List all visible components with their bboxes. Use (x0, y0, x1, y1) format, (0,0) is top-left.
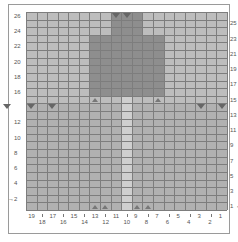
grid-line-horizontal (26, 111, 227, 112)
grid-line-horizontal (26, 50, 227, 51)
grid-line-horizontal (26, 35, 227, 36)
column-label: 10 (124, 219, 131, 225)
row-label-left: 6 (14, 165, 17, 171)
grid-line-horizontal (26, 126, 227, 127)
row-start-arrow-icon: → (8, 196, 14, 202)
grid-line-horizontal (26, 88, 227, 89)
grid-line-horizontal (26, 134, 227, 135)
row-label-right: 9 (230, 142, 233, 148)
grid-line-horizontal (26, 96, 227, 97)
row-label-left: 16 (14, 89, 21, 95)
decrease-triangle-icon (123, 13, 131, 18)
column-tick (190, 214, 191, 217)
row-label-right: 7 (230, 158, 233, 164)
row-label-left: 18 (14, 74, 21, 80)
column-label: 3 (198, 213, 201, 219)
grid-line-horizontal (26, 157, 227, 158)
grid-line-horizontal (26, 187, 227, 188)
column-label: 18 (39, 219, 46, 225)
grid-line-horizontal (26, 164, 227, 165)
column-tick (148, 214, 149, 217)
column-label: 16 (60, 219, 67, 225)
column-label: 2 (208, 219, 211, 225)
decrease-triangle-icon (218, 104, 226, 109)
grid-line-horizontal (26, 141, 227, 142)
increase-triangle-icon (155, 98, 161, 102)
row-label-right: 15 (230, 97, 237, 103)
row-label-left: 4 (14, 180, 17, 186)
increase-triangle-icon (92, 205, 98, 209)
row-label-right: 19 (230, 66, 237, 72)
column-label: 12 (102, 219, 109, 225)
column-tick (42, 214, 43, 217)
row-label-left: 20 (14, 59, 21, 65)
grid-line-horizontal (26, 210, 227, 211)
decrease-triangle-icon (3, 104, 11, 109)
column-label: 11 (113, 213, 119, 219)
grid-line-horizontal (26, 119, 227, 120)
grid-line-horizontal (26, 27, 227, 28)
column-tick (105, 214, 106, 217)
column-label: 1 (219, 213, 222, 219)
row-label-left: 8 (14, 150, 17, 156)
row-label-left: 10 (14, 135, 21, 141)
column-label: 6 (166, 219, 169, 225)
column-label: 14 (81, 219, 88, 225)
row-label-right: 11 (230, 127, 236, 133)
grid-line-horizontal (26, 58, 227, 59)
row-label-right: 3 (230, 188, 233, 194)
row-label-left: 12 (14, 119, 21, 125)
center-stripe (121, 96, 132, 210)
column-tick (84, 214, 85, 217)
column-label: 8 (145, 219, 148, 225)
increase-triangle-icon (92, 98, 98, 102)
row-label-left: 26 (14, 13, 21, 19)
increase-triangle-icon (102, 205, 108, 209)
row-label-right: 25 (230, 20, 237, 26)
column-label: 7 (155, 213, 158, 219)
grid-line-horizontal (26, 20, 227, 21)
row-label-right: 23 (230, 36, 237, 42)
row-label-right: 1 (230, 203, 233, 209)
decrease-triangle-icon (197, 104, 205, 109)
grid-line-horizontal (26, 73, 227, 74)
decrease-triangle-icon (112, 13, 120, 18)
grid-line-vertical (227, 12, 228, 210)
column-label: 19 (28, 213, 35, 219)
row-start-arrow-icon: ← (236, 203, 238, 209)
column-label: 5 (176, 213, 179, 219)
row-label-right: 21 (230, 51, 237, 57)
grid-line-horizontal (26, 195, 227, 196)
grid-line-horizontal (26, 180, 227, 181)
row-label-right: 17 (230, 81, 237, 87)
increase-triangle-icon (145, 205, 151, 209)
column-label: 17 (49, 213, 56, 219)
column-tick (211, 214, 212, 217)
row-label-right: 13 (230, 112, 237, 118)
grid-line-horizontal (26, 149, 227, 150)
column-label: 15 (71, 213, 78, 219)
stitch-grid (26, 12, 227, 210)
row-label-right: 5 (230, 173, 233, 179)
row-label-left: 22 (14, 43, 21, 49)
row-label-left: 2 (14, 196, 17, 202)
column-tick (127, 214, 128, 217)
increase-triangle-icon (134, 205, 140, 209)
grid-line-horizontal (26, 202, 227, 203)
row-label-left: 24 (14, 28, 21, 34)
column-tick (63, 214, 64, 217)
grid-line-horizontal (26, 172, 227, 173)
column-label: 4 (187, 219, 190, 225)
column-tick (169, 214, 170, 217)
decrease-triangle-icon (48, 104, 56, 109)
decrease-triangle-icon (27, 104, 35, 109)
column-label: 13 (92, 213, 99, 219)
grid-line-horizontal (26, 81, 227, 82)
grid-line-horizontal (26, 42, 227, 43)
grid-line-horizontal (26, 65, 227, 66)
column-label: 9 (134, 213, 137, 219)
